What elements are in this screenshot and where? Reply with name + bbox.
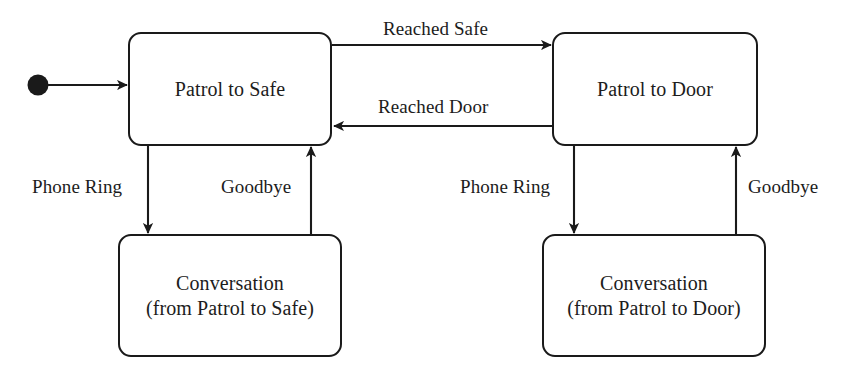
transition-label-goodbye-right: Goodbye (748, 176, 818, 198)
state-patrol-to-door[interactable]: Patrol to Door (552, 32, 758, 146)
state-diagram-canvas: Patrol to Safe Patrol to Door Conversati… (0, 0, 855, 386)
transition-label-phone-ring-right: Phone Ring (460, 176, 550, 198)
transition-label-reached-door: Reached Door (378, 96, 488, 118)
state-conversation-from-patrol-to-door-label: Conversation (from Patrol to Door) (567, 271, 741, 321)
state-patrol-to-safe-label: Patrol to Safe (175, 77, 285, 102)
transition-label-goodbye-left: Goodbye (221, 176, 291, 198)
state-patrol-to-door-label: Patrol to Door (597, 77, 713, 102)
state-conversation-from-patrol-to-safe-label: Conversation (from Patrol to Safe) (146, 271, 314, 321)
initial-state-dot (28, 75, 49, 96)
state-patrol-to-safe[interactable]: Patrol to Safe (128, 32, 332, 146)
state-conversation-from-patrol-to-door[interactable]: Conversation (from Patrol to Door) (542, 234, 766, 357)
state-conversation-from-patrol-to-safe[interactable]: Conversation (from Patrol to Safe) (118, 234, 342, 357)
transition-label-reached-safe: Reached Safe (383, 18, 488, 40)
transition-label-phone-ring-left: Phone Ring (32, 176, 122, 198)
